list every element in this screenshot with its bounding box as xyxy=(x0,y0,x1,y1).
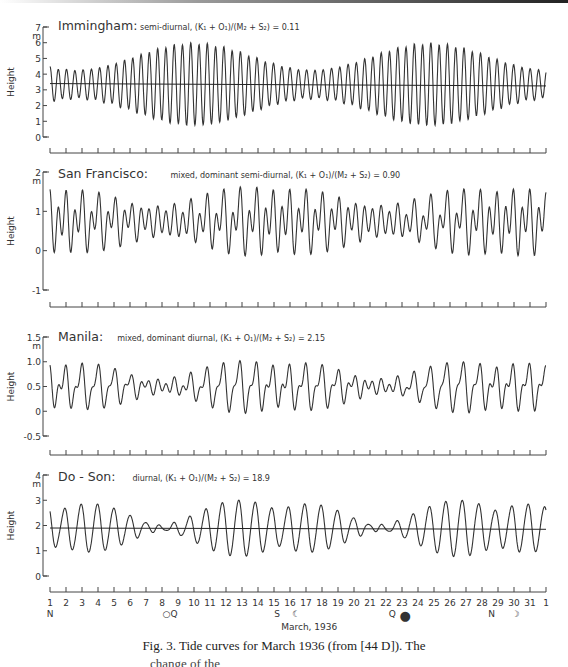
y-axis-label: Height xyxy=(6,371,16,401)
date-tick-label: 26 xyxy=(444,598,456,608)
tide-type-subtitle: mixed, dominant semi-diurnal, (K₁ + O₁)/… xyxy=(170,171,400,180)
date-tick-label: 6 xyxy=(127,598,133,608)
date-tick-label: 14 xyxy=(252,598,264,608)
y-tick-label: 1 xyxy=(35,117,41,127)
y-axis xyxy=(43,172,49,290)
mean-sea-level-line xyxy=(50,528,546,529)
date-tick-label: 27 xyxy=(460,598,471,608)
tide-type-subtitle: diurnal, (K₁ + O₁)/(M₂ + S₂) = 18.9 xyxy=(132,474,270,483)
y-unit-label: m xyxy=(32,479,41,489)
date-tick-label: 13 xyxy=(236,598,247,608)
date-tick-label: 2 xyxy=(63,598,69,608)
y-unit-label: m xyxy=(32,341,41,351)
y-tick-label: 0 xyxy=(35,407,41,417)
date-tick-label: 16 xyxy=(284,598,296,608)
station-title: Do - Son: xyxy=(58,469,115,484)
date-tick-label: 4 xyxy=(95,598,101,608)
station-title: Manila: xyxy=(58,329,103,344)
date-tick-label: 25 xyxy=(428,598,439,608)
date-tick-label: 19 xyxy=(332,598,344,608)
date-tick-label: 18 xyxy=(316,598,328,608)
y-tick-label: 0.5 xyxy=(27,382,41,392)
panel-do-son: 01234mHeightDo - Son:diurnal, (K₁ + O₁)/… xyxy=(6,469,546,592)
y-tick-label: -1 xyxy=(32,286,41,296)
date-tick-label: 9 xyxy=(175,598,181,608)
y-tick-label: -0.5 xyxy=(23,432,41,442)
moon-phase-annotation: ● xyxy=(400,608,411,623)
y-tick-label: 0 xyxy=(35,246,41,256)
y-tick-label: 1 xyxy=(35,207,41,217)
date-tick-label: 15 xyxy=(268,598,279,608)
station-title: San Francisco: xyxy=(58,166,148,181)
x-axis-label: March, 1936 xyxy=(281,622,337,632)
y-tick-label: 4 xyxy=(35,70,41,80)
y-tick-label: 2 xyxy=(35,101,41,111)
date-tick-label: 30 xyxy=(508,598,520,608)
moon-phase-annotation: N xyxy=(488,609,495,619)
moon-phase-annotation: S xyxy=(274,609,280,619)
date-tick-label: 8 xyxy=(159,598,165,608)
date-tick-label: 1 xyxy=(543,598,549,608)
y-axis-label: Height xyxy=(6,216,16,246)
mean-sea-level-line xyxy=(50,84,546,86)
y-unit-label: m xyxy=(32,176,41,186)
figure-caption-continued: change of the xyxy=(150,656,450,667)
tide-curve xyxy=(50,187,546,256)
y-tick-label: 0 xyxy=(35,133,41,143)
y-axis xyxy=(43,27,49,137)
y-tick-label: 1.0 xyxy=(27,357,42,367)
date-tick-label: 5 xyxy=(111,598,117,608)
panel-san-francisco: -1012mHeightSan Francisco:mixed, dominan… xyxy=(6,166,546,307)
y-tick-label: 2 xyxy=(35,521,41,531)
date-tick-label: 28 xyxy=(476,598,488,608)
date-tick-label: 3 xyxy=(79,598,85,608)
moon-phase-annotation: N xyxy=(47,609,54,619)
date-tick-label: 24 xyxy=(412,598,424,608)
y-tick-label: 0 xyxy=(35,572,41,582)
panel-manila: -0.500.51.01.5mHeightManila:mixed, domin… xyxy=(6,329,546,455)
date-tick-label: 1 xyxy=(47,598,53,608)
date-tick-label: 29 xyxy=(492,598,504,608)
date-tick-label: 11 xyxy=(204,598,215,608)
tide-type-subtitle: semi-diurnal, (K₁ + O₁)/(M₂ + S₂) = 0.11 xyxy=(140,23,300,32)
tide-curve xyxy=(50,361,546,414)
date-tick-label: 17 xyxy=(300,598,311,608)
panel-immingham: 01234567mHeightImmingham:semi-diurnal, (… xyxy=(6,18,546,153)
date-tick-label: 22 xyxy=(380,598,391,608)
moon-phase-annotation: ☽ xyxy=(512,609,520,619)
y-axis-label: Height xyxy=(6,67,16,97)
date-tick-label: 21 xyxy=(364,598,375,608)
y-tick-label: 1 xyxy=(35,546,41,556)
y-tick-label: 3 xyxy=(35,496,41,506)
moon-phase-annotation: ☾ xyxy=(292,609,300,619)
y-unit-label: m xyxy=(32,31,41,41)
moon-phase-annotation: Q xyxy=(389,609,396,619)
date-axis-labels: 1234567891011121314151617181920212223242… xyxy=(47,598,549,632)
moon-phase-annotation: ○Q xyxy=(163,609,178,619)
station-title: Immingham: xyxy=(58,18,137,33)
date-tick-label: 23 xyxy=(396,598,407,608)
date-tick-label: 31 xyxy=(524,598,535,608)
y-tick-label: 5 xyxy=(35,54,41,64)
y-axis-label: Height xyxy=(6,510,16,540)
date-tick-label: 12 xyxy=(220,598,231,608)
date-tick-label: 7 xyxy=(143,598,149,608)
date-tick-label: 10 xyxy=(188,598,200,608)
figure-caption: Fig. 3. Tide curves for March 1936 (from… xyxy=(0,638,568,654)
tide-curves-figure: 01234567mHeightImmingham:semi-diurnal, (… xyxy=(0,0,568,667)
date-tick-label: 20 xyxy=(348,598,360,608)
tide-type-subtitle: mixed, dominant diurnal, (K₁ + O₁)/(M₂ +… xyxy=(117,334,325,343)
y-tick-label: 3 xyxy=(35,85,41,95)
